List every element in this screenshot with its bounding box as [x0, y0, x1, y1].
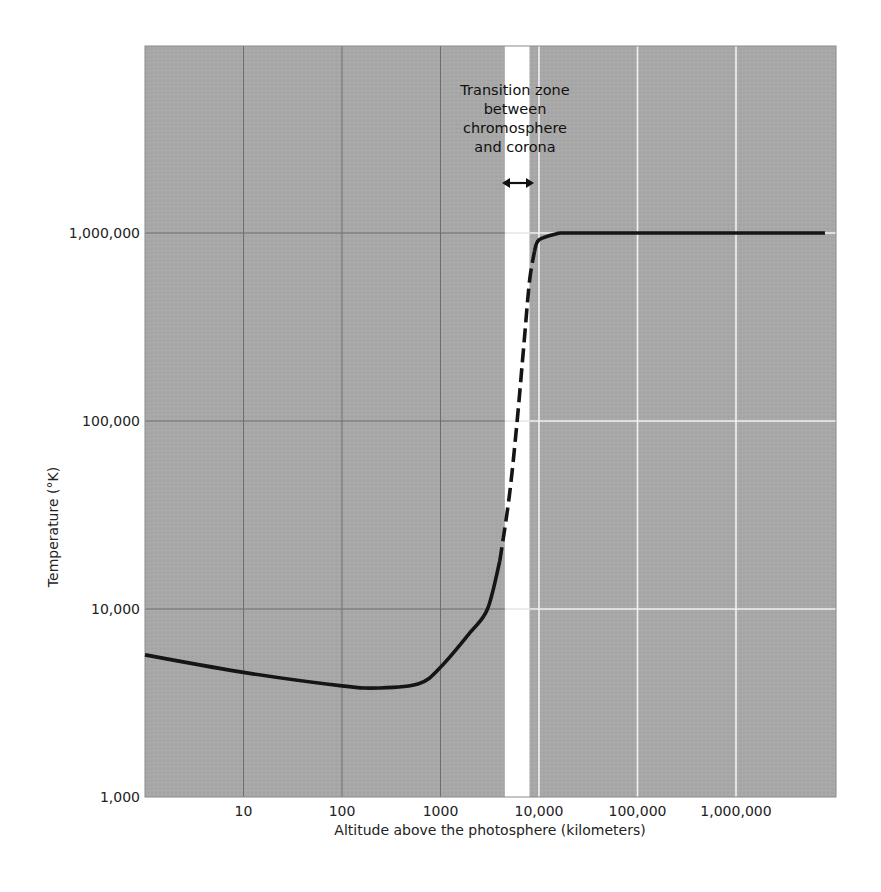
y-tick-label: 100,000: [82, 413, 140, 429]
y-tick-label: 1,000: [100, 789, 140, 805]
x-tick-label: 10,000: [515, 803, 564, 819]
y-axis-title: Temperature (°K): [45, 467, 61, 588]
y-tick-label: 10,000: [91, 601, 140, 617]
y-tick-label: 1,000,000: [69, 225, 140, 241]
x-tick-label: 1,000,000: [700, 803, 771, 819]
x-tick-label: 100,000: [609, 803, 667, 819]
annotation-line-2: between: [484, 101, 547, 117]
x-tick-label: 10: [235, 803, 253, 819]
x-axis-ticks: 10100100010,000100,0001,000,000: [235, 803, 772, 819]
temperature-altitude-chart: 10100100010,000100,0001,000,000 1,00010,…: [0, 0, 881, 892]
y-axis-ticks: 1,00010,000100,0001,000,000: [69, 225, 140, 805]
x-axis-title: Altitude above the photosphere (kilomete…: [334, 822, 645, 838]
annotation-line-4: and corona: [474, 139, 555, 155]
x-tick-label: 1000: [423, 803, 459, 819]
annotation-line-1: Transition zone: [459, 82, 569, 98]
x-tick-label: 100: [329, 803, 356, 819]
annotation-line-3: chromosphere: [463, 120, 567, 136]
